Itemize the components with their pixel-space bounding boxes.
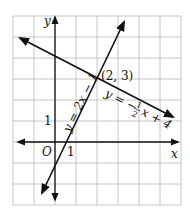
coordinate-graph: y x O 1 1 (2, 3) y = 2x − 1 y = − 1 2 x … — [0, 0, 190, 219]
y-axis-label: y — [43, 14, 51, 28]
line2-equation-label: y = − 1 2 x + 4 — [100, 85, 175, 136]
x-tick-label-1: 1 — [67, 145, 75, 159]
y-tick-label-1: 1 — [44, 114, 52, 128]
line1-equation-label: y = 2x − 1 — [60, 70, 101, 135]
x-axis-label: x — [171, 147, 178, 161]
origin-label: O — [42, 145, 52, 159]
intersection-point-label: (2, 3) — [101, 69, 133, 83]
